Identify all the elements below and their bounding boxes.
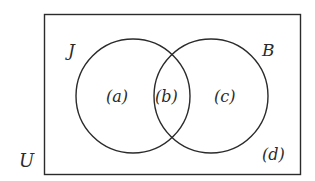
region-b-label: (b) [155,87,178,106]
set-j-label: J [65,40,76,60]
venn-diagram: J B U (a) (b) (c) (d) [0,0,315,181]
region-c-label: (c) [214,87,235,106]
region-a-label: (a) [106,87,128,106]
set-b-label: B [261,40,275,60]
region-d-label: (d) [262,145,285,164]
universe-label: U [19,150,35,171]
